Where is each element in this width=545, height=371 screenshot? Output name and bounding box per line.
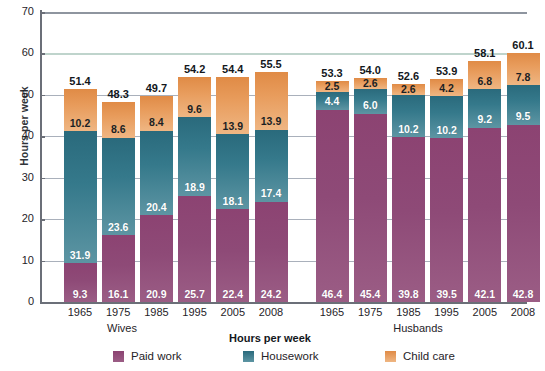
- y-tick-label-60: 60: [0, 46, 34, 58]
- bar-segment-paid-work[interactable]: 25.7: [178, 196, 211, 302]
- y-tick-label-70: 70: [0, 5, 34, 17]
- bar-segment-paid-work[interactable]: 22.4: [216, 209, 249, 302]
- stacked-bar-chart: Hours per week 010203040506070 10.231.99…: [0, 0, 545, 371]
- bar-total-label: 55.5: [249, 59, 294, 70]
- bar-total-label: 51.4: [58, 76, 103, 87]
- bar-segment-child-care[interactable]: 13.9: [216, 77, 249, 135]
- y-tick-label-40: 40: [0, 129, 34, 141]
- y-tick-label-0: 0: [0, 295, 34, 307]
- legend-swatch-paid-work-icon: [113, 351, 124, 362]
- bar-husbands-1985[interactable]: 2.610.239.852.6: [392, 84, 425, 302]
- gridline-60: [42, 53, 527, 54]
- segment-value-label: 31.9: [64, 250, 97, 261]
- bar-segment-child-care[interactable]: 2.6: [354, 78, 387, 89]
- bar-segment-housework[interactable]: 10.2: [430, 96, 463, 138]
- segment-value-label: 10.2: [64, 118, 97, 129]
- bar-wives-1995[interactable]: 9.618.925.754.2: [178, 77, 211, 302]
- bar-segment-child-care[interactable]: 10.2: [64, 89, 97, 131]
- bar-wives-2008[interactable]: 13.917.424.255.5: [255, 72, 288, 302]
- segment-value-label: 24.2: [255, 289, 288, 300]
- bar-husbands-1975[interactable]: 2.66.045.454.0: [354, 78, 387, 302]
- bar-segment-paid-work[interactable]: 42.8: [507, 125, 540, 302]
- bar-segment-paid-work[interactable]: 16.1: [102, 235, 135, 302]
- legend-item-paid-work: Paid work: [113, 350, 182, 362]
- segment-value-label: 18.1: [216, 196, 249, 207]
- bar-segment-child-care[interactable]: 4.2: [430, 79, 463, 96]
- bar-segment-housework[interactable]: 20.4: [140, 131, 173, 216]
- bar-husbands-2008[interactable]: 7.89.542.860.1: [507, 53, 540, 302]
- bar-segment-child-care[interactable]: 8.6: [102, 102, 135, 138]
- bar-segment-paid-work[interactable]: 45.4: [354, 114, 387, 302]
- segment-value-label: 23.6: [102, 222, 135, 233]
- segment-value-label: 9.2: [468, 114, 501, 125]
- segment-value-label: 2.5: [316, 81, 349, 92]
- segment-value-label: 46.4: [316, 289, 349, 300]
- x-axis-line: [40, 302, 527, 304]
- bar-segment-child-care[interactable]: 2.5: [316, 81, 349, 91]
- segment-value-label: 42.8: [507, 289, 540, 300]
- legend-label-housework: Housework: [261, 350, 319, 362]
- y-tick-label-10: 10: [0, 254, 34, 266]
- y-tick-label-30: 30: [0, 171, 34, 183]
- bar-segment-paid-work[interactable]: 20.9: [140, 215, 173, 302]
- segment-value-label: 9.6: [178, 104, 211, 115]
- segment-value-label: 42.1: [468, 289, 501, 300]
- segment-value-label: 6.8: [468, 76, 501, 87]
- segment-value-label: 17.4: [255, 188, 288, 199]
- bar-segment-housework[interactable]: 18.9: [178, 117, 211, 195]
- legend-item-child-care: Child care: [385, 350, 455, 362]
- segment-value-label: 22.4: [216, 289, 249, 300]
- segment-value-label: 2.6: [392, 84, 425, 95]
- bar-husbands-2005[interactable]: 6.89.242.158.1: [468, 61, 501, 302]
- bar-segment-housework[interactable]: 9.5: [507, 85, 540, 124]
- bar-wives-1975[interactable]: 8.623.616.148.3: [102, 102, 135, 302]
- bar-segment-paid-work[interactable]: 24.2: [255, 202, 288, 302]
- bar-segment-housework[interactable]: 17.4: [255, 130, 288, 202]
- legend-swatch-housework-icon: [243, 351, 254, 362]
- y-tick-label-20: 20: [0, 212, 34, 224]
- bar-segment-housework[interactable]: 9.2: [468, 89, 501, 127]
- bar-segment-housework[interactable]: 23.6: [102, 138, 135, 236]
- bar-wives-2005[interactable]: 13.918.122.454.4: [216, 77, 249, 302]
- bar-segment-child-care[interactable]: 7.8: [507, 53, 540, 85]
- bar-husbands-1965[interactable]: 2.54.446.453.3: [316, 81, 349, 302]
- bar-segment-child-care[interactable]: 13.9: [255, 72, 288, 130]
- bar-segment-child-care[interactable]: 8.4: [140, 96, 173, 131]
- bar-segment-paid-work[interactable]: 39.5: [430, 138, 463, 302]
- bar-segment-paid-work[interactable]: 42.1: [468, 128, 501, 302]
- bar-segment-child-care[interactable]: 9.6: [178, 77, 211, 117]
- segment-value-label: 9.3: [64, 289, 97, 300]
- segment-value-label: 39.5: [430, 289, 463, 300]
- legend-title: Hours per week: [180, 332, 360, 344]
- bar-segment-paid-work[interactable]: 46.4: [316, 110, 349, 302]
- segment-value-label: 39.8: [392, 289, 425, 300]
- bar-segment-paid-work[interactable]: 9.3: [64, 263, 97, 302]
- bar-wives-1985[interactable]: 8.420.420.949.7: [140, 96, 173, 302]
- segment-value-label: 4.4: [316, 96, 349, 107]
- segment-value-label: 10.2: [392, 124, 425, 135]
- legend-label-paid-work: Paid work: [131, 350, 182, 362]
- segment-value-label: 25.7: [178, 289, 211, 300]
- y-axis-line: [40, 10, 42, 304]
- bar-segment-child-care[interactable]: 2.6: [392, 84, 425, 95]
- bar-segment-housework[interactable]: 10.2: [392, 95, 425, 137]
- legend-item-housework: Housework: [243, 350, 319, 362]
- segment-value-label: 13.9: [255, 116, 288, 127]
- bar-segment-housework[interactable]: 6.0: [354, 89, 387, 114]
- segment-value-label: 10.2: [430, 125, 463, 136]
- segment-value-label: 7.8: [507, 72, 540, 83]
- segment-value-label: 16.1: [102, 289, 135, 300]
- bar-segment-child-care[interactable]: 6.8: [468, 61, 501, 89]
- group-label-wives: Wives: [62, 322, 182, 334]
- bar-total-label: 60.1: [501, 40, 545, 51]
- x-tick-label-wives-2008: 2008: [249, 306, 293, 318]
- bar-segment-housework[interactable]: 31.9: [64, 131, 97, 263]
- bar-segment-housework[interactable]: 18.1: [216, 134, 249, 209]
- bar-husbands-1995[interactable]: 4.210.239.553.9: [430, 79, 463, 302]
- legend-swatch-child-care-icon: [385, 351, 396, 362]
- legend-label-child-care: Child care: [403, 350, 455, 362]
- bar-segment-housework[interactable]: 4.4: [316, 92, 349, 110]
- bar-segment-paid-work[interactable]: 39.8: [392, 137, 425, 302]
- bar-wives-1965[interactable]: 10.231.99.351.4: [64, 89, 97, 302]
- segment-value-label: 20.9: [140, 289, 173, 300]
